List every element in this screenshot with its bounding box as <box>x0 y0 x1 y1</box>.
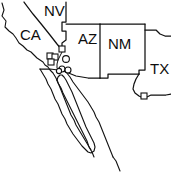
map-figure: NV CA AZ NM TX <box>0 0 171 174</box>
square-marker[interactable] <box>59 46 65 52</box>
california-pacific-coastline <box>2 3 94 157</box>
map-canvas: NV CA AZ NM TX <box>0 0 171 174</box>
mexico-mainland-lower-coast <box>113 157 120 171</box>
newmexico-east-border <box>139 24 145 74</box>
state-label-az: AZ <box>78 30 97 47</box>
circle-marker[interactable] <box>63 56 70 63</box>
square-marker-el-paso[interactable] <box>141 93 147 99</box>
newmexico-south-border <box>100 74 139 78</box>
texas-mexico-rio-grande <box>133 74 171 98</box>
circle-marker[interactable] <box>65 67 71 73</box>
gulf-of-california-mainland-coast <box>66 72 113 157</box>
state-label-ca: CA <box>20 26 41 43</box>
circle-marker[interactable] <box>56 68 61 73</box>
state-label-nv: NV <box>44 2 65 19</box>
state-label-nm: NM <box>108 35 131 52</box>
arizona-south-border <box>66 72 100 78</box>
state-label-tx: TX <box>150 60 169 77</box>
square-marker[interactable] <box>48 59 54 65</box>
texas-north-border <box>145 30 171 36</box>
